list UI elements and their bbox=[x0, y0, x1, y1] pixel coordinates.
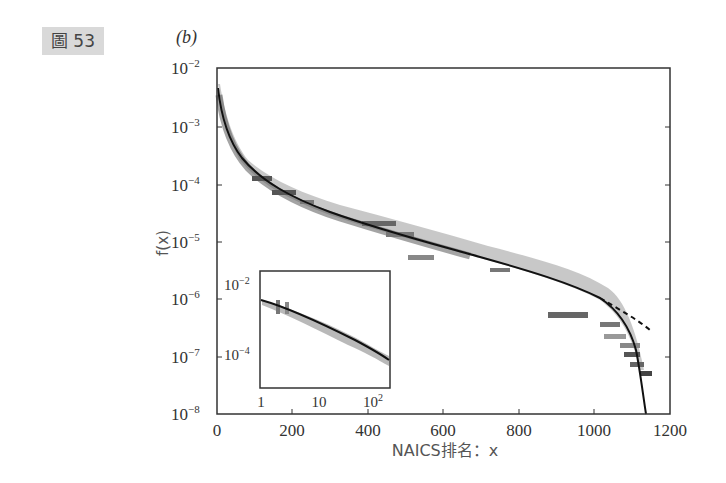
x-tick-labels: 0 200 400 600 800 1000 1200 bbox=[213, 421, 687, 440]
inset-plot: 10−2 10−4 1 10 102 bbox=[224, 271, 390, 410]
svg-text:200: 200 bbox=[279, 421, 305, 440]
y-axis-title: f(x) bbox=[154, 230, 172, 256]
svg-text:1000: 1000 bbox=[577, 421, 611, 440]
svg-text:10−6: 10−6 bbox=[171, 288, 200, 309]
svg-text:10−2: 10−2 bbox=[224, 275, 250, 293]
svg-text:1: 1 bbox=[257, 394, 265, 410]
svg-text:102: 102 bbox=[363, 392, 383, 410]
svg-text:800: 800 bbox=[506, 421, 532, 440]
svg-text:600: 600 bbox=[430, 421, 456, 440]
svg-text:10−2: 10−2 bbox=[171, 57, 200, 78]
y-tick-labels: 10−2 10−3 10−4 10−5 10−6 10−7 10−8 bbox=[171, 57, 200, 424]
svg-text:10−5: 10−5 bbox=[171, 231, 200, 252]
svg-text:10−8: 10−8 bbox=[171, 403, 200, 424]
svg-text:400: 400 bbox=[355, 421, 381, 440]
svg-text:10−7: 10−7 bbox=[171, 346, 200, 367]
svg-text:10: 10 bbox=[312, 394, 327, 410]
svg-text:10−3: 10−3 bbox=[171, 116, 200, 137]
svg-text:0: 0 bbox=[213, 421, 222, 440]
x-axis-title: NAICS排名：x bbox=[392, 441, 498, 460]
chart: 10−2 10−3 10−4 10−5 10−6 10−7 10−8 0 200… bbox=[0, 0, 726, 483]
svg-text:10−4: 10−4 bbox=[224, 345, 250, 363]
svg-text:1200: 1200 bbox=[653, 421, 687, 440]
svg-text:10−4: 10−4 bbox=[171, 174, 200, 195]
